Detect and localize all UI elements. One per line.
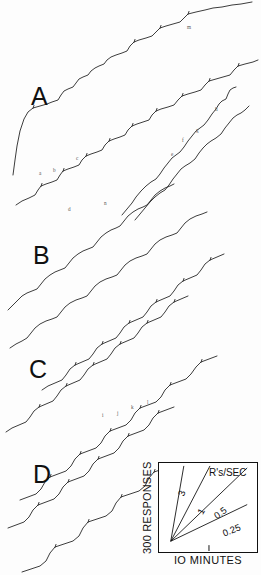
curve-tag-f: f bbox=[182, 138, 184, 143]
curve-tag-d: d bbox=[68, 207, 71, 212]
cumulative-curve bbox=[13, 2, 252, 175]
curve-tag-j: j bbox=[117, 411, 118, 416]
legend-y-axis-caption: 300 RESPONSES bbox=[140, 463, 154, 554]
rate-line-1 bbox=[171, 466, 210, 541]
panel-label-c: C bbox=[29, 357, 47, 382]
panel-label-d: D bbox=[33, 462, 51, 487]
curve-tag-b: b bbox=[53, 168, 56, 173]
cumulative-curve bbox=[42, 254, 224, 390]
panel-label-b: B bbox=[33, 243, 50, 268]
rate-units-label: R's/SEC bbox=[209, 468, 246, 478]
rate-line-3 bbox=[171, 466, 184, 541]
curve-tag-g: g bbox=[196, 128, 199, 133]
cumulative-curve bbox=[135, 106, 249, 220]
curve-tag-n: n bbox=[104, 201, 107, 206]
curve-tag-a: a bbox=[39, 171, 41, 176]
cumulative-curve bbox=[122, 87, 236, 215]
legend-x-axis-caption: IO MINUTES bbox=[158, 555, 258, 566]
rate-calibration-inset: R's/SEC 310.50.25 300 RESPONSES bbox=[158, 462, 258, 553]
curve-tag-k: k bbox=[131, 405, 134, 410]
curve-tag-i: i bbox=[102, 413, 103, 418]
panel-label-a: A bbox=[31, 84, 48, 109]
curve-tag-c: c bbox=[76, 156, 78, 161]
curve-tag-h: h bbox=[215, 107, 218, 112]
cumulative-curve bbox=[10, 212, 207, 348]
curve-tag-e: e bbox=[171, 152, 173, 157]
cumulative-record-figure: ABCD abcdefghijklmn R's/SEC 310.50.25 30… bbox=[0, 0, 261, 575]
curve-tag-m: m bbox=[187, 25, 191, 30]
curve-tag-l: l bbox=[147, 400, 148, 405]
